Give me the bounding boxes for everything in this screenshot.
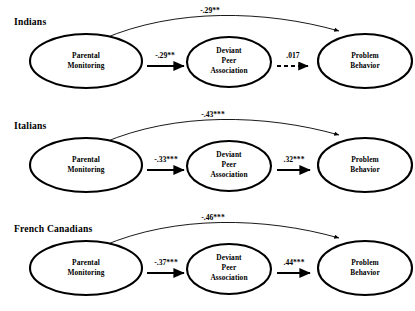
group-label-french-canadians: French Canadians — [14, 223, 93, 234]
node-problem-behavior-line1-italians: Problem — [351, 155, 379, 164]
a-path-label-indians: -.29** — [155, 51, 175, 60]
direct-path-arrow-indians — [103, 15, 339, 39]
direct-path-label-french-canadians: -.46*** — [201, 213, 225, 222]
node-parental-monitoring-line2-italians: Monitoring — [67, 165, 104, 174]
a-path-label-italians: -.33*** — [154, 155, 178, 164]
a-path-label-french-canadians: -.37*** — [154, 258, 178, 267]
node-deviant-peer-line3-indians: Association — [210, 66, 247, 75]
node-deviant-peer-line3-french-canadians: Association — [210, 273, 247, 282]
node-deviant-peer-line2-french-canadians: Peer — [222, 263, 237, 272]
node-problem-behavior-line1-indians: Problem — [351, 51, 379, 60]
node-deviant-peer-line1-indians: Deviant — [216, 46, 242, 55]
node-deviant-peer-line2-indians: Peer — [222, 56, 237, 65]
node-problem-behavior-line2-french-canadians: Behavior — [350, 268, 380, 277]
direct-path-arrow-french-canadians — [103, 222, 339, 246]
node-problem-behavior-line2-italians: Behavior — [350, 165, 380, 174]
direct-path-label-indians: -.29** — [200, 6, 220, 15]
panel-french-canadians: French Canadians -.46*** Parental Monito… — [0, 207, 415, 311]
node-parental-monitoring-line1-italians: Parental — [72, 155, 100, 164]
node-parental-monitoring-line2-indians: Monitoring — [67, 61, 104, 70]
node-problem-behavior-line2-indians: Behavior — [350, 61, 380, 70]
panel-italians: Italians -.43*** Parental Monitoring -.3… — [0, 104, 415, 208]
b-path-label-indians: .017 — [286, 51, 299, 60]
panel-indians: Indians -.29** Parental Monitoring -.29*… — [0, 0, 415, 104]
group-label-italians: Italians — [14, 120, 47, 131]
node-deviant-peer-line1-italians: Deviant — [216, 150, 242, 159]
direct-path-arrow-italians — [103, 119, 339, 143]
node-deviant-peer-line2-italians: Peer — [222, 160, 237, 169]
node-deviant-peer-line1-french-canadians: Deviant — [216, 253, 242, 262]
node-deviant-peer-line3-italians: Association — [210, 170, 247, 179]
b-path-label-french-canadians: .44*** — [284, 258, 305, 267]
node-parental-monitoring-line2-french-canadians: Monitoring — [67, 268, 104, 277]
path-diagram-figure: Indians -.29** Parental Monitoring -.29*… — [0, 0, 415, 311]
b-path-label-italians: .32*** — [284, 155, 305, 164]
node-problem-behavior-line1-french-canadians: Problem — [351, 258, 379, 267]
direct-path-label-italians: -.43*** — [201, 110, 225, 119]
node-parental-monitoring-line1-french-canadians: Parental — [72, 258, 100, 267]
node-parental-monitoring-line1-indians: Parental — [72, 51, 100, 60]
group-label-indians: Indians — [14, 16, 46, 27]
